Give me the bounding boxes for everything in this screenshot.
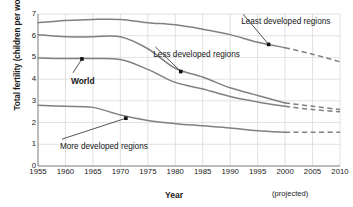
x-tick-label: 2010 [320,167,353,176]
annotation-marker [267,43,271,47]
series-less-developed-regions [38,35,340,110]
series-more-developed-regions [38,105,340,132]
annotation-marker [80,57,84,61]
y-tick-label: 6 [20,32,36,40]
annotation-marker [179,70,183,74]
series-label-least-developed-regions: Least developed regions [241,17,330,26]
y-tick-label: 1 [20,140,36,148]
annotation-leader-line [73,59,82,73]
series-label-more-developed-regions: More developed regions [60,142,148,151]
series-line-observed [38,105,285,132]
series-line-observed [38,35,285,103]
y-tick-label: 3 [20,97,36,105]
y-tick-label: 5 [20,53,36,61]
y-tick-label: 7 [20,10,36,18]
y-tick-label: 4 [20,75,36,83]
series-label-world: World [71,76,95,86]
annotation-marker [124,116,128,120]
series-label-less-developed-regions: Less developed regions [153,50,240,59]
annotation-leader-line [62,118,126,139]
y-tick-label: 2 [20,119,36,127]
